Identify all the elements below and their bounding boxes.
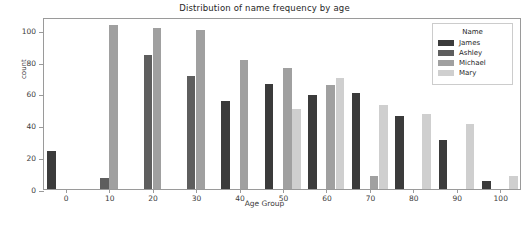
bar <box>422 114 431 189</box>
x-tick: 30 <box>196 189 197 193</box>
legend-item-ashley[interactable]: Ashley <box>438 49 507 57</box>
bar <box>109 25 118 189</box>
legend-item-michael[interactable]: Michael <box>438 59 507 67</box>
bar <box>336 78 345 189</box>
chart-figure: Distribution of name frequency by age co… <box>0 0 529 230</box>
legend-item-label: Mary <box>459 69 476 77</box>
legend-item-mary[interactable]: Mary <box>438 69 507 77</box>
bar <box>395 116 404 189</box>
x-tick: 20 <box>153 189 154 193</box>
bar <box>265 84 274 189</box>
y-tick-label: 0 <box>31 186 36 195</box>
legend-swatch-icon <box>438 60 454 66</box>
y-tick: 0 <box>39 191 44 192</box>
legend-item-label: James <box>459 39 480 47</box>
legend-title: Name <box>438 28 507 36</box>
legend-swatch-icon <box>438 70 454 76</box>
x-tick: 80 <box>413 189 414 193</box>
x-tick: 70 <box>370 189 371 193</box>
x-tick: 40 <box>240 189 241 193</box>
legend-item-label: Ashley <box>459 49 482 57</box>
bar <box>187 76 196 189</box>
bar <box>482 181 491 189</box>
bar <box>240 60 249 189</box>
bar <box>196 30 205 189</box>
bar <box>352 93 361 189</box>
legend-swatch-icon <box>438 40 454 46</box>
bar <box>47 151 56 189</box>
bar <box>308 95 317 189</box>
y-tick-label: 100 <box>22 27 36 36</box>
bar <box>221 101 230 189</box>
y-tick-label: 60 <box>26 90 36 99</box>
bar <box>509 176 518 189</box>
legend-item-james[interactable]: James <box>438 39 507 47</box>
x-tick: 90 <box>457 189 458 193</box>
legend-swatch-icon <box>438 50 454 56</box>
bar <box>292 109 301 189</box>
bar <box>370 176 379 189</box>
bar <box>283 68 292 189</box>
x-tick: 10 <box>109 189 110 193</box>
y-tick-label: 40 <box>26 122 36 131</box>
y-tick-label: 20 <box>26 154 36 163</box>
legend-item-label: Michael <box>459 59 486 67</box>
x-tick: 50 <box>283 189 284 193</box>
x-tick: 100 <box>500 189 501 193</box>
bar <box>466 124 475 189</box>
bar <box>153 28 162 189</box>
bar <box>379 105 388 189</box>
bar <box>100 178 109 189</box>
bar <box>439 140 448 189</box>
bar <box>326 85 335 189</box>
bar <box>144 55 153 189</box>
x-tick: 0 <box>66 189 67 193</box>
legend: Name JamesAshleyMichaelMary <box>432 23 513 85</box>
chart-title: Distribution of name frequency by age <box>0 3 529 13</box>
x-axis-label: Age Group <box>0 199 529 208</box>
y-tick-label: 80 <box>26 59 36 68</box>
legend-rows: JamesAshleyMichaelMary <box>438 39 507 77</box>
x-tick: 60 <box>326 189 327 193</box>
